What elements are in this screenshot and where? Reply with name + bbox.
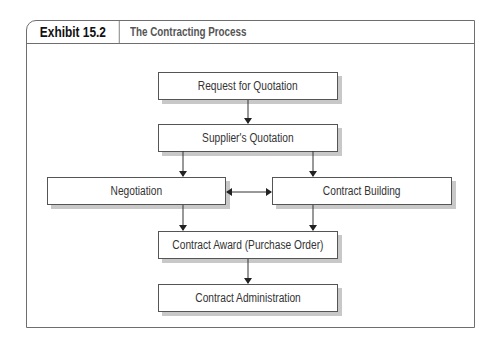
node-label: Contract Award (Purchase Order) [172, 238, 323, 252]
node-contract-administration: Contract Administration [158, 284, 338, 312]
node-label: Request for Quotation [198, 79, 298, 93]
node-label: Supplier's Quotation [202, 131, 294, 145]
node-label: Negotiation [111, 184, 163, 198]
exhibit-label: Exhibit 15.2 [27, 21, 120, 43]
node-contract-award: Contract Award (Purchase Order) [158, 231, 338, 259]
exhibit-header: Exhibit 15.2 The Contracting Process [27, 21, 474, 44]
exhibit-title: The Contracting Process [130, 21, 246, 43]
node-label: Contract Building [323, 184, 401, 198]
node-suppliers-quotation: Supplier's Quotation [158, 124, 338, 152]
node-contract-building: Contract Building [272, 177, 452, 205]
node-negotiation: Negotiation [47, 177, 226, 205]
exhibit-frame: Exhibit 15.2 The Contracting Process [26, 20, 475, 328]
node-request-for-quotation: Request for Quotation [158, 72, 338, 100]
node-label: Contract Administration [195, 291, 300, 305]
